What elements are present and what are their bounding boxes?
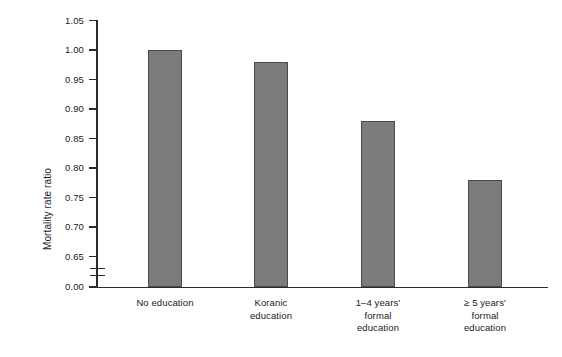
y-axis-tick-label-text: 0.70 bbox=[40, 221, 84, 232]
y-axis-tick-label-text: 0.75 bbox=[40, 192, 84, 203]
y-axis-tick-label: 1.05 bbox=[38, 15, 84, 27]
x-axis-tick-label: No education bbox=[110, 297, 220, 310]
y-axis-tick bbox=[89, 20, 97, 21]
bar bbox=[148, 50, 182, 287]
x-axis-line bbox=[96, 287, 548, 288]
x-axis-tick-label-line: No education bbox=[110, 297, 220, 310]
y-axis-tick-label-text: 0.95 bbox=[40, 74, 84, 85]
y-axis-line bbox=[96, 20, 98, 287]
y-axis-tick-label: 0.65 bbox=[38, 251, 84, 263]
x-axis-tick-label-line: education bbox=[323, 322, 433, 335]
chart-figure: Mortality rate ratio 1.051.000.950.900.8… bbox=[0, 0, 562, 357]
y-axis-tick bbox=[89, 256, 97, 257]
x-axis-tick-label-line: 1–4 years' bbox=[323, 297, 433, 310]
y-axis-tick bbox=[89, 108, 97, 109]
y-axis-tick bbox=[89, 226, 97, 227]
y-axis-tick-label-text: 0.65 bbox=[40, 251, 84, 262]
axis-break-mark-upper bbox=[90, 268, 105, 270]
y-axis-tick bbox=[89, 49, 97, 50]
x-axis-tick-label: ≥ 5 years'formaleducation bbox=[430, 297, 540, 335]
x-axis-tick-label-line: education bbox=[430, 322, 540, 335]
y-axis-tick-label-text: 1.05 bbox=[40, 15, 84, 26]
y-axis-tick-label: 0.70 bbox=[38, 221, 84, 233]
bar bbox=[254, 62, 288, 287]
x-axis-tick-label-line: education bbox=[216, 310, 326, 323]
axis-break-mark-lower bbox=[90, 275, 105, 277]
y-axis-tick-label: 0.75 bbox=[38, 192, 84, 204]
y-axis-tick bbox=[89, 197, 97, 198]
y-axis-tick-label: 0.85 bbox=[38, 133, 84, 145]
x-axis-tick-label-line: ≥ 5 years' bbox=[430, 297, 540, 310]
y-axis-tick-label: 0.00 bbox=[38, 281, 84, 293]
y-axis-tick-label-text: 0.90 bbox=[40, 103, 84, 114]
y-axis-tick bbox=[89, 138, 97, 139]
y-axis-tick-label-text: 0.00 bbox=[40, 281, 84, 292]
bar bbox=[468, 180, 502, 287]
y-axis-tick-label: 1.00 bbox=[38, 44, 84, 56]
x-axis-tick-label: Koraniceducation bbox=[216, 297, 326, 322]
y-axis-tick bbox=[89, 79, 97, 80]
y-axis-tick-label: 0.90 bbox=[38, 103, 84, 115]
x-axis-tick-label: 1–4 years'formaleducation bbox=[323, 297, 433, 335]
x-axis-tick-label-line: formal bbox=[430, 310, 540, 323]
x-axis-tick-label-line: Koranic bbox=[216, 297, 326, 310]
y-axis-tick bbox=[89, 286, 97, 287]
y-axis-tick-label: 0.80 bbox=[38, 162, 84, 174]
y-axis-tick-label-text: 1.00 bbox=[40, 44, 84, 55]
y-axis-tick-label-text: 0.85 bbox=[40, 133, 84, 144]
bar bbox=[361, 121, 395, 287]
y-axis-tick-label-text: 0.80 bbox=[40, 162, 84, 173]
y-axis-tick bbox=[89, 167, 97, 168]
x-axis-tick-label-line: formal bbox=[323, 310, 433, 323]
y-axis-tick-label: 0.95 bbox=[38, 74, 84, 86]
